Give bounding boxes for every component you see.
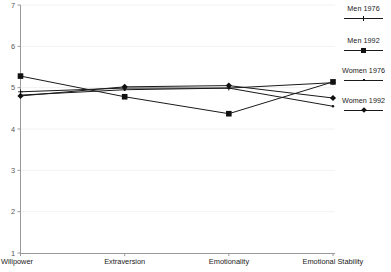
- x-tick-label: Extraversion: [104, 257, 145, 266]
- diamond-marker-icon: [361, 107, 367, 113]
- legend-entry: Men 1992: [336, 36, 391, 55]
- legend-label-women-1992: Women 1992: [336, 96, 391, 105]
- y-tick-label: 4: [3, 125, 15, 134]
- axes: [18, 5, 336, 256]
- plus-marker-icon: [363, 16, 364, 21]
- y-tick-label: 5: [3, 83, 15, 92]
- y-tick-label: 3: [3, 166, 15, 175]
- x-tick-label: Emotionality: [209, 257, 249, 266]
- diamond-marker-icon: [122, 84, 128, 90]
- square-marker-icon: [330, 79, 336, 85]
- legend-entry: Men 1976: [336, 4, 391, 23]
- legend-label-men-1992: Men 1992: [336, 36, 391, 45]
- legend-label-women-1976: Women 1976: [336, 66, 391, 75]
- legend-sample-men-1976: [336, 13, 391, 23]
- data-series-layer: [17, 73, 336, 116]
- legend-sample-women-1992: [336, 105, 391, 115]
- y-tick-label: 6: [3, 42, 15, 51]
- square-marker-icon: [18, 73, 24, 79]
- dot-marker-icon: [332, 105, 334, 107]
- x-tick-label: Willpower: [1, 257, 33, 266]
- square-marker-icon: [361, 48, 366, 53]
- square-marker-icon: [226, 111, 232, 117]
- series-men-1992: [18, 73, 336, 116]
- y-tick-label: 7: [3, 1, 15, 10]
- diamond-marker-icon: [17, 93, 23, 99]
- legend-label-men-1976: Men 1976: [336, 4, 391, 13]
- y-tick-label: 2: [3, 207, 15, 216]
- square-marker-icon: [122, 94, 128, 100]
- chart-legend: Men 1976 Men 1992 Women 1976 Women 1992: [336, 0, 391, 130]
- line-chart-plot: [0, 0, 391, 272]
- series-line: [21, 88, 334, 106]
- x-tick-label: Emotional Stability: [303, 257, 364, 266]
- legend-entry: Women 1976: [336, 66, 391, 85]
- legend-sample-men-1992: [336, 45, 391, 55]
- series-line: [21, 76, 334, 114]
- gridlines: [21, 5, 336, 212]
- legend-sample-women-1976: [336, 75, 391, 85]
- legend-entry: Women 1992: [336, 96, 391, 115]
- dot-marker-icon: [363, 79, 365, 81]
- chart-container: 7654321 WillpowerExtraversionEmotionalit…: [0, 0, 391, 272]
